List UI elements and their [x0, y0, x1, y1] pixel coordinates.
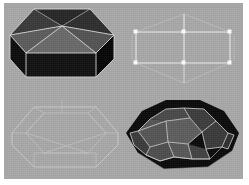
- dome-body-front-face: [26, 53, 96, 77]
- wireframe-vertex-top-right: [228, 30, 232, 34]
- faint-inner-hexagon: [26, 113, 106, 153]
- faint-top-right-edge: [88, 107, 96, 113]
- faint-top-left-edge: [34, 107, 44, 113]
- wireframe-vertex-top-left: [134, 30, 138, 34]
- wireframe-vertex-top-center: [182, 30, 186, 34]
- panel-shaded-pentagonal-dome: pentagonal dome, shaded, viewed from abo…: [4, 3, 128, 93]
- wireframe-lower-nadir-edge: [136, 63, 230, 83]
- wireframe-bright-edge-group: [136, 14, 230, 83]
- wireframe-vertex-bottom-right: [228, 61, 232, 65]
- wireframe-prism-drawing: [126, 5, 243, 93]
- figure-plate: pentagonal dome, shaded, viewed from abo…: [4, 3, 243, 179]
- wireframe-faint-edge-group: [132, 14, 234, 83]
- faint-diagonal-edge-3: [26, 113, 44, 133]
- figure-root: pentagonal dome, shaded, viewed from abo…: [0, 0, 249, 185]
- panel-wireframe-prism: rectangular prism projection with apex a…: [126, 5, 243, 93]
- faint-wireframe-inner-group: [12, 101, 118, 167]
- wireframe-vertex-group: [134, 30, 232, 65]
- wireframe-vertex-bottom-center: [182, 61, 186, 65]
- shaded-truncated-dome-drawing: [122, 91, 243, 179]
- panel-shaded-truncated-dome: truncated polyhedron dome of pentagon an…: [122, 91, 243, 179]
- panel-faint-wireframe-polyhedron: faint line wireframe of the polyhedron s…: [4, 91, 126, 179]
- shaded-pentagonal-dome-drawing: [4, 3, 128, 93]
- wireframe-upper-apex-edge: [136, 14, 230, 32]
- faint-wireframe-drawing: [4, 91, 126, 179]
- wireframe-vertex-bottom-left: [134, 61, 138, 65]
